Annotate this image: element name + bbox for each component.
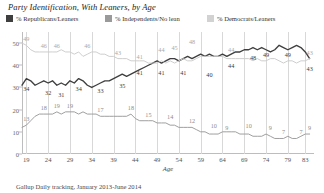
- y-axis-tick-label: 20: [12, 106, 19, 113]
- y-axis-tick-label: 10: [12, 128, 19, 135]
- chart-legend: % Republicans/Leaners % Independents/No …: [6, 15, 318, 26]
- legend-swatch-republicans: [6, 15, 13, 22]
- x-axis-tick-label: 34: [88, 156, 95, 163]
- legend-swatch-democrats: [207, 15, 214, 22]
- legend-item-independents: % Independents/No lean: [105, 15, 180, 22]
- legend-item-democrats: % Democrats/Leaners: [207, 15, 275, 22]
- legend-label-republicans: % Republicans/Leaners: [16, 15, 78, 22]
- chart-title: Party Identification, With Leaners, by A…: [8, 2, 156, 12]
- x-axis-tick-label: 24: [45, 156, 52, 163]
- chart-source-note: Gallup Daily tracking, January 2013-June…: [16, 183, 141, 190]
- y-axis-tick-label: 40: [12, 62, 19, 69]
- x-axis-tick-label: 74: [263, 156, 270, 163]
- legend-item-republicans: % Republicans/Leaners: [6, 15, 78, 22]
- x-axis-tick-label: 83: [302, 156, 309, 163]
- x-axis-tick-label: 64: [219, 156, 226, 163]
- x-axis-tick-label: 19: [23, 156, 30, 163]
- chart-root: Party Identification, With Leaners, by A…: [0, 0, 324, 193]
- x-axis-tick-label: 39: [110, 156, 117, 163]
- legend-label-independents: % Independents/No lean: [115, 15, 180, 22]
- x-axis-tick-label: 49: [154, 156, 161, 163]
- series-lines: [22, 32, 314, 154]
- y-axis-tick-label: 50: [12, 40, 19, 47]
- x-axis-tick-label: 59: [197, 156, 204, 163]
- y-axis-tick-label: 30: [12, 84, 19, 91]
- x-axis-tick-label: 69: [241, 156, 248, 163]
- x-axis-tick-label: 54: [176, 156, 183, 163]
- series-line: [22, 43, 310, 63]
- legend-label-democrats: % Democrats/Leaners: [217, 15, 275, 22]
- x-axis-title: Age: [163, 165, 173, 172]
- legend-swatch-independents: [105, 15, 112, 22]
- series-line: [22, 112, 310, 139]
- x-axis-tick-label: 44: [132, 156, 139, 163]
- plot-area: 01020304050 1924293439444954596469747983…: [22, 32, 314, 154]
- x-axis-tick-label: 29: [67, 156, 74, 163]
- x-axis-tick-label: 79: [285, 156, 292, 163]
